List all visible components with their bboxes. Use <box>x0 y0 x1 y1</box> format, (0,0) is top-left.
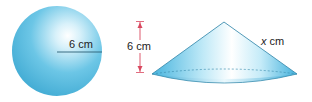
cone-height-label: 6 cm <box>127 40 151 52</box>
arrow-up-icon <box>138 23 143 29</box>
sphere-radius-label: 6 cm <box>69 38 93 50</box>
cone-height-dimension: 6 cm <box>127 22 151 73</box>
sphere: 6 cm <box>12 6 102 96</box>
cone-body <box>152 22 297 83</box>
cone: x cm <box>152 22 297 83</box>
figure-canvas: 6 cm 6 cm x cm <box>0 0 312 102</box>
arrow-down-icon <box>138 66 143 72</box>
slant-unit: cm <box>267 35 285 47</box>
cone-slant-label: x cm <box>260 35 284 47</box>
sphere-body <box>12 6 102 96</box>
